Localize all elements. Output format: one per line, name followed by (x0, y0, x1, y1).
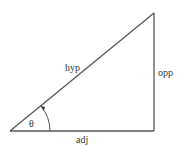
adjacent-label: adj (76, 134, 88, 145)
angle-arc (41, 106, 50, 131)
hypotenuse-side (10, 13, 154, 131)
angle-label: θ (29, 118, 34, 129)
triangle-diagram: θ hyp opp adj (0, 0, 181, 147)
opposite-label: opp (158, 67, 173, 78)
hypotenuse-label: hyp (65, 62, 80, 73)
